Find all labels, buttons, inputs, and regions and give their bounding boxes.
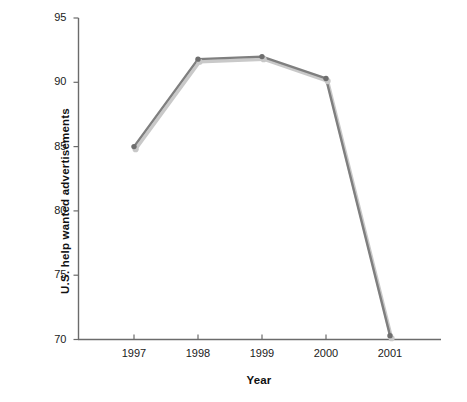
x-tick-label: 1999	[237, 347, 287, 359]
data-point-1999	[259, 54, 264, 59]
y-tick-label: 80	[33, 204, 67, 216]
data-point-1998	[195, 56, 200, 61]
series-group	[131, 54, 394, 341]
y-tick-label: 90	[33, 75, 67, 87]
x-axis-title-label: Year	[246, 374, 271, 386]
x-tick-label: 2001	[365, 347, 415, 359]
data-point-2000	[323, 76, 328, 81]
x-tick-label: 2000	[301, 347, 351, 359]
y-axis-title-label: U.S. help wanted advertisements	[59, 108, 71, 294]
y-axis-ticks	[74, 18, 79, 340]
x-axis-title: Year	[78, 374, 440, 386]
x-tick-label: 1997	[109, 347, 159, 359]
data-point-2001	[387, 333, 392, 338]
chart-figure: U.S. help wanted advertisements Year 707…	[0, 0, 467, 402]
y-tick-label: 85	[33, 140, 67, 152]
y-tick-label: 75	[33, 268, 67, 280]
y-tick-label: 95	[33, 11, 67, 23]
x-axis-ticks	[134, 335, 390, 340]
axes-group	[78, 18, 441, 340]
data-point-1997	[131, 144, 136, 149]
y-tick-label: 70	[33, 333, 67, 345]
x-tick-label: 1998	[173, 347, 223, 359]
series-line-shadow	[136, 59, 392, 338]
